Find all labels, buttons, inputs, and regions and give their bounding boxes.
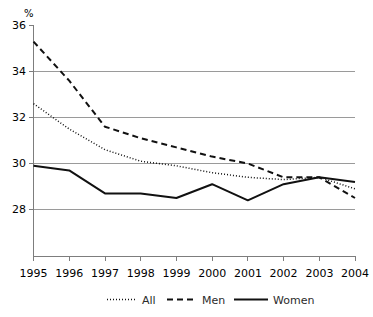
x-tick-label-2001: 2001 <box>234 267 262 280</box>
x-tick-label-1995: 1995 <box>20 267 48 280</box>
y-axis-unit-label: % <box>24 8 34 19</box>
legend-label-all: All <box>142 294 156 307</box>
gridlines <box>33 72 355 257</box>
x-tick-label-1997: 1997 <box>91 267 119 280</box>
x-tick-label-1998: 1998 <box>127 267 155 280</box>
x-axis: 1995 1996 1997 1998 1999 2000 2001 2002 … <box>20 256 370 280</box>
y-tick-label-28: 28 <box>12 203 26 216</box>
x-tick-label-2003: 2003 <box>305 267 333 280</box>
series-line-women <box>34 166 356 201</box>
y-tick-label-34: 34 <box>12 65 26 78</box>
line-chart: % 36 34 32 30 28 <box>0 0 373 317</box>
y-tick-label-30: 30 <box>12 157 26 170</box>
x-tick-label-1996: 1996 <box>55 267 83 280</box>
y-axis: 36 34 32 30 28 <box>12 19 34 256</box>
legend-label-women: Women <box>273 294 314 307</box>
y-tick-label-36: 36 <box>12 19 26 32</box>
y-tick-label-32: 32 <box>12 111 26 124</box>
x-tick-label-1999: 1999 <box>162 267 190 280</box>
legend-label-men: Men <box>202 294 225 307</box>
series-group <box>34 42 356 201</box>
series-line-men <box>34 42 356 198</box>
x-tick-label-2004: 2004 <box>341 267 369 280</box>
x-tick-label-2000: 2000 <box>198 267 226 280</box>
chart-canvas: % 36 34 32 30 28 <box>0 0 373 317</box>
x-tick-label-2002: 2002 <box>270 267 298 280</box>
series-line-all <box>34 104 356 189</box>
legend: All Men Women <box>107 294 314 307</box>
